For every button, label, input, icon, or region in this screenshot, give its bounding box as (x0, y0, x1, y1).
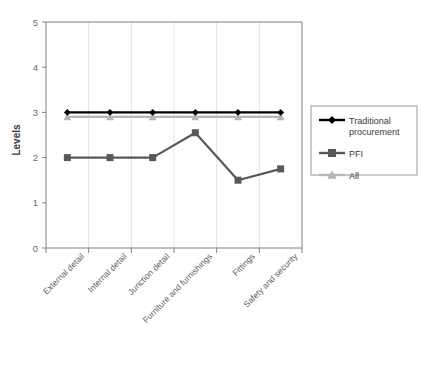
legend-label: All (349, 171, 359, 181)
y-axis-tick-label: 0 (33, 243, 38, 254)
chart-canvas: 012345 Levels External detailInternal de… (0, 0, 422, 366)
data-point-square-marker (149, 154, 156, 161)
x-axis-category-label: Fittings (230, 251, 256, 277)
data-point-square-marker (235, 177, 242, 184)
data-point-square-marker (328, 149, 336, 157)
y-axis-tick-label: 3 (33, 107, 38, 118)
x-axis-category-label: Junction detail (126, 251, 172, 297)
y-axis-tick-label: 5 (33, 17, 38, 28)
x-axis-category-label: Internal detail (86, 251, 129, 294)
x-axis-category-label: External detail (41, 251, 86, 296)
data-point-square-marker (107, 154, 114, 161)
y-axis-tick-label: 1 (33, 197, 38, 208)
legend-label: PFI (349, 149, 363, 159)
data-point-square-marker (192, 129, 199, 136)
legend-label: procurement (349, 127, 400, 137)
y-axis-title: Levels (11, 124, 22, 156)
chart-legend: TraditionalprocurementPFIAll (311, 106, 417, 181)
y-axis-tick-label: 2 (33, 152, 38, 163)
x-axis-ticks (46, 248, 302, 253)
x-axis-category-label: Furniture and furnishings (141, 251, 215, 325)
line-chart: 012345 Levels External detailInternal de… (0, 0, 422, 366)
data-point-square-marker (64, 154, 71, 161)
y-axis: 012345 (33, 17, 46, 254)
y-axis-tick-label: 4 (33, 62, 38, 73)
legend-label: Traditional (349, 116, 391, 126)
x-axis-category-labels: External detailInternal detailJunction d… (41, 251, 300, 325)
data-point-square-marker (277, 165, 284, 172)
